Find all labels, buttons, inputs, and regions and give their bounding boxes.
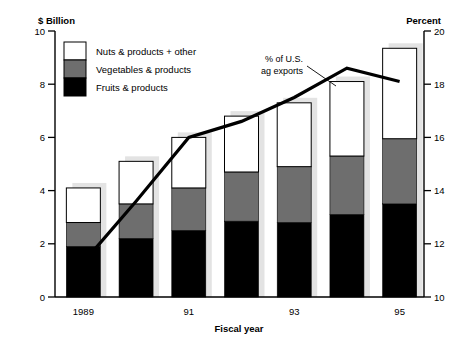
left-axis-tick-label: 4 xyxy=(40,185,45,196)
right-axis-tick-label: 20 xyxy=(434,26,445,37)
right-axis-title: Percent xyxy=(406,15,442,26)
left-axis-title: $ Billion xyxy=(38,15,75,26)
line-annotation-text-1: % of U.S. xyxy=(265,54,303,64)
bar-stack[interactable] xyxy=(383,48,417,297)
legend-label: Nuts & products + other xyxy=(96,46,196,57)
left-axis-tick-label: 8 xyxy=(40,79,45,90)
bar-segment[interactable] xyxy=(383,139,417,204)
x-axis-tick-label: 91 xyxy=(183,306,194,317)
right-axis-tick-label: 14 xyxy=(434,185,445,196)
left-axis-ticks: 0246810 xyxy=(34,26,55,303)
right-axis-tick-label: 10 xyxy=(434,292,445,303)
x-axis-tick-label: 95 xyxy=(394,306,405,317)
bar-segment[interactable] xyxy=(383,204,417,297)
bar-stack[interactable] xyxy=(277,103,311,297)
bar-segment[interactable] xyxy=(119,238,153,297)
legend-label: Fruits & products xyxy=(96,82,168,93)
bar-segment[interactable] xyxy=(330,156,364,215)
bar-segment[interactable] xyxy=(172,231,206,298)
bar-segment[interactable] xyxy=(277,167,311,223)
bar-segment[interactable] xyxy=(225,172,259,221)
right-axis-tick-label: 12 xyxy=(434,238,445,249)
stacked-bar-line-chart: 0246810 101214161820 1989919395 $ Billio… xyxy=(0,0,472,358)
bar-segment[interactable] xyxy=(119,161,153,204)
chart-container: 0246810 101214161820 1989919395 $ Billio… xyxy=(0,0,472,358)
bar-segment[interactable] xyxy=(277,223,311,297)
x-axis-title: Fiscal year xyxy=(214,323,263,334)
right-axis-tick-label: 16 xyxy=(434,132,445,143)
bar-segment[interactable] xyxy=(119,204,153,239)
x-axis-tick-label: 1989 xyxy=(73,306,94,317)
bar-segment[interactable] xyxy=(330,82,364,156)
bar-stack[interactable] xyxy=(225,116,259,297)
bar-stack[interactable] xyxy=(66,188,100,297)
bar-segment[interactable] xyxy=(172,137,206,188)
legend: Nuts & products + otherVegetables & prod… xyxy=(64,42,196,96)
bar-segment[interactable] xyxy=(330,215,364,297)
bar-segment[interactable] xyxy=(277,103,311,167)
legend-label: Vegetables & products xyxy=(96,64,191,75)
x-axis-tick-label: 93 xyxy=(289,306,300,317)
left-axis-tick-label: 6 xyxy=(40,132,45,143)
left-axis-tick-label: 0 xyxy=(40,292,45,303)
bar-segment[interactable] xyxy=(225,221,259,297)
bar-stack[interactable] xyxy=(330,82,364,297)
legend-swatch xyxy=(64,42,86,60)
left-axis-tick-label: 2 xyxy=(40,238,45,249)
bar-stack[interactable] xyxy=(119,161,153,297)
legend-swatch xyxy=(64,60,86,78)
bar-stack[interactable] xyxy=(172,137,206,297)
line-annotation-text-2: ag exports xyxy=(261,66,304,76)
bar-segment[interactable] xyxy=(66,223,100,247)
left-axis-tick-label: 10 xyxy=(34,26,45,37)
bar-segment[interactable] xyxy=(66,246,100,297)
legend-swatch xyxy=(64,78,86,96)
x-axis-ticks: 1989919395 xyxy=(73,306,405,317)
bar-segment[interactable] xyxy=(383,48,417,138)
bar-segment[interactable] xyxy=(172,188,206,231)
right-axis-tick-label: 18 xyxy=(434,79,445,90)
right-axis-ticks: 101214161820 xyxy=(424,26,445,303)
bar-segment[interactable] xyxy=(66,188,100,223)
